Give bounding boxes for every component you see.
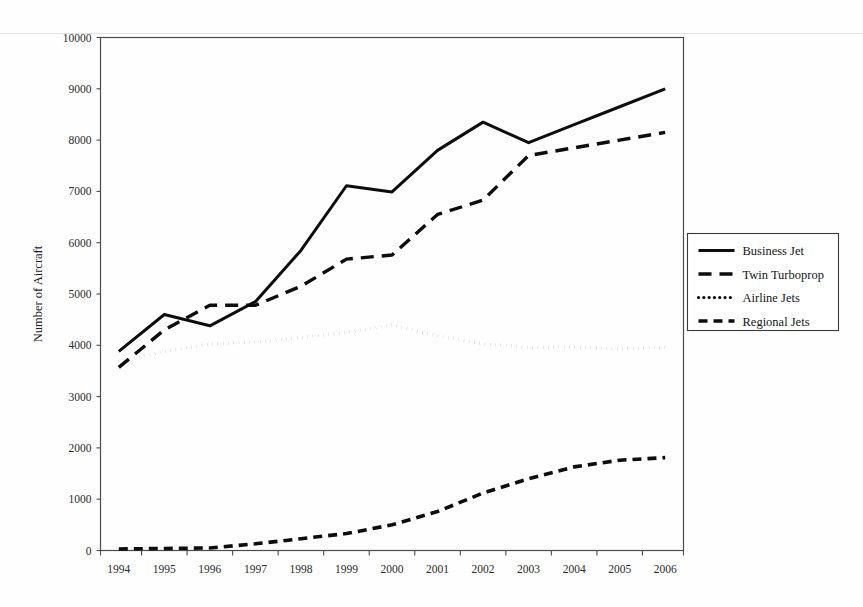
y-tick-label: 8000 [69, 134, 92, 146]
series-layer [119, 89, 665, 549]
series-line-regional-jets [119, 458, 665, 549]
series-line-twin-turboprop [119, 132, 665, 367]
x-tick-label: 1997 [244, 563, 267, 575]
legend-label: Regional Jets [743, 315, 810, 329]
y-tick-label: 2000 [69, 442, 92, 454]
y-tick-label: 9000 [69, 83, 92, 95]
x-tick-label: 1994 [107, 563, 130, 575]
line-chart: 0100020003000400050006000700080009000100… [0, 0, 863, 607]
x-tick-label: 2001 [426, 563, 449, 575]
x-tick-label: 2000 [381, 563, 404, 575]
x-tick-label: 1999 [335, 563, 358, 575]
y-tick-label: 10000 [63, 32, 92, 44]
x-tick-label: 1996 [198, 563, 221, 575]
y-tick-label: 7000 [69, 185, 92, 197]
series-line-airline-jets [119, 325, 665, 362]
series-line-business-jet [119, 89, 665, 352]
x-tick-label: 1995 [153, 563, 176, 575]
plot-frame [101, 38, 684, 551]
y-tick-label: 1000 [69, 493, 92, 505]
y-tick-label: 5000 [69, 288, 92, 300]
legend-label: Airline Jets [743, 291, 800, 305]
chart-page: 0100020003000400050006000700080009000100… [0, 0, 863, 607]
y-tick-label: 4000 [69, 339, 92, 351]
legend-label: Twin Turboprop [743, 268, 824, 282]
y-tick-label: 3000 [69, 391, 92, 403]
y-tick-label: 6000 [69, 237, 92, 249]
x-tick-label: 2004 [563, 563, 586, 575]
x-axis: 1994199519961997199819992000200120022003… [101, 551, 684, 575]
chart-legend: Business JetTwin TurbopropAirline JetsRe… [688, 234, 839, 331]
legend-label: Business Jet [743, 244, 805, 258]
x-tick-label: 2005 [608, 563, 631, 575]
y-tick-label: 0 [86, 545, 92, 557]
x-tick-label: 1998 [289, 563, 312, 575]
y-axis-title: Number of Aircraft [31, 245, 45, 342]
x-tick-label: 2003 [517, 563, 540, 575]
y-axis: 0100020003000400050006000700080009000100… [63, 32, 101, 557]
x-tick-label: 2002 [472, 563, 495, 575]
x-tick-label: 2006 [654, 563, 677, 575]
